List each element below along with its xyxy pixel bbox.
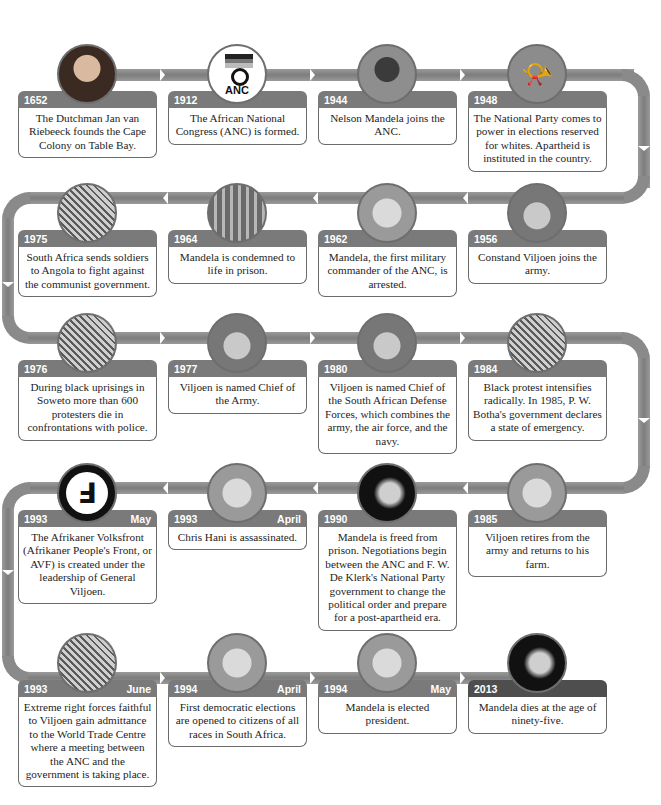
event-description: The National Party comes to power in ele… bbox=[468, 108, 607, 172]
event-description: The African National Congress (ANC) is f… bbox=[168, 108, 307, 145]
timeline-track-left-2 bbox=[2, 508, 14, 658]
event-description: Mandela is freed from prison. Negotiatio… bbox=[318, 527, 457, 631]
event-description: Extreme right forces faithful to Viljoen… bbox=[18, 697, 157, 787]
prison-bars-photo-image bbox=[207, 183, 267, 243]
chevron-down-icon bbox=[638, 418, 650, 423]
event-year: 1984 bbox=[474, 363, 497, 375]
chevron-left-icon bbox=[313, 192, 318, 204]
triskelion-icon: Ⅎ bbox=[66, 472, 108, 514]
event-year: 1976 bbox=[24, 363, 47, 375]
mandela-arrest-drawing-image bbox=[357, 183, 417, 243]
event-description: During black uprisings in Soweto more th… bbox=[18, 377, 157, 441]
mandela-president-drawing-image bbox=[357, 633, 417, 693]
young-mandela-photo-image bbox=[357, 44, 417, 104]
event-description: Mandela is condemned to life in prison. bbox=[168, 247, 307, 284]
chevron-right-icon bbox=[160, 672, 165, 684]
event-year: 1993 bbox=[24, 683, 47, 695]
event-description: Mandela is elected president. bbox=[318, 697, 457, 734]
chevron-right-icon bbox=[460, 69, 465, 81]
world-trade-centre-storming-drawing-image bbox=[57, 633, 117, 693]
event-description: Mandela dies at the age of ninety-five. bbox=[468, 697, 607, 734]
chevron-right-icon bbox=[160, 69, 165, 81]
event-year: 1993 bbox=[24, 513, 47, 525]
timeline-card-1993-may: 1993May The Afrikaner Volksfront (Afrika… bbox=[18, 510, 157, 604]
event-month: May bbox=[131, 513, 151, 525]
timeline-track-corner bbox=[2, 482, 30, 510]
timeline-card-1990: 1990 Mandela is freed from prison. Negot… bbox=[318, 510, 457, 631]
chevron-left-icon bbox=[163, 192, 168, 204]
event-description: Constand Viljoen joins the army. bbox=[468, 247, 607, 284]
event-description: The Dutchman Jan van Riebeeck founds the… bbox=[18, 108, 157, 158]
chevron-down-icon bbox=[2, 282, 14, 287]
event-year: 1993 bbox=[174, 513, 197, 525]
anc-logo-image: ANC bbox=[207, 44, 267, 104]
event-year: 1652 bbox=[24, 94, 47, 106]
event-year: 1977 bbox=[174, 363, 197, 375]
event-year: 1912 bbox=[174, 94, 197, 106]
viljoen-farmer-hat-drawing-image bbox=[507, 463, 567, 523]
timeline-track-corner bbox=[622, 176, 650, 204]
chevron-down-icon bbox=[2, 570, 14, 575]
chevron-right-icon bbox=[460, 672, 465, 684]
chevron-right-icon bbox=[310, 332, 315, 344]
anc-flag-icon bbox=[225, 54, 253, 68]
event-year: 1962 bbox=[324, 233, 347, 245]
viljoen-general-drawing-image bbox=[357, 313, 417, 373]
viljoen-beret-drawing-image bbox=[507, 183, 567, 243]
chevron-left-icon bbox=[163, 482, 168, 494]
event-description: South Africa sends soldiers to Angola to… bbox=[18, 247, 157, 297]
elderly-mandela-portrait-image bbox=[507, 633, 567, 693]
angola-soldiers-drawing-image bbox=[57, 183, 117, 243]
event-description: The Afrikaner Volksfront (Afrikaner Peop… bbox=[18, 527, 157, 604]
chevron-right-icon bbox=[460, 332, 465, 344]
event-year: 1964 bbox=[174, 233, 197, 245]
event-year: 1990 bbox=[324, 513, 347, 525]
timeline-track-corner bbox=[622, 466, 650, 494]
event-year: 1994 bbox=[324, 683, 347, 695]
event-year: 2013 bbox=[474, 683, 497, 695]
timeline-track-right-1 bbox=[638, 96, 650, 188]
chevron-left-icon bbox=[313, 482, 318, 494]
event-year: 1956 bbox=[474, 233, 497, 245]
event-year: 1985 bbox=[474, 513, 497, 525]
chevron-right-icon bbox=[310, 69, 315, 81]
event-description: Chris Hani is assassinated. bbox=[168, 527, 307, 550]
chris-hani-drawing-image bbox=[207, 463, 267, 523]
event-year: 1994 bbox=[174, 683, 197, 695]
event-month: June bbox=[126, 683, 151, 695]
event-year: 1948 bbox=[474, 94, 497, 106]
emblem-inner: Ⅎ bbox=[66, 472, 108, 514]
timeline-card-1993-june: 1993June Extreme right forces faithful t… bbox=[18, 680, 157, 787]
powder-horn-icon: 📯 bbox=[509, 46, 565, 102]
viljoen-chief-army-drawing-image bbox=[207, 313, 267, 373]
event-month: May bbox=[431, 683, 451, 695]
chevron-right-icon bbox=[160, 332, 165, 344]
timeline-track-left-1 bbox=[2, 218, 14, 318]
timeline-track-corner bbox=[2, 192, 30, 220]
event-description: Viljoen is named Chief of the Army. bbox=[168, 377, 307, 414]
event-year: 1975 bbox=[24, 233, 47, 245]
event-description: Black protest intensifies radically. In … bbox=[468, 377, 607, 441]
event-description: Mandela, the first military commander of… bbox=[318, 247, 457, 297]
chevron-left-icon bbox=[463, 192, 468, 204]
event-month: April bbox=[277, 683, 301, 695]
event-year: 1944 bbox=[324, 94, 347, 106]
event-description: Viljoen is named Chief of the South Afri… bbox=[318, 377, 457, 454]
event-description: Nelson Mandela joins the ANC. bbox=[318, 108, 457, 145]
event-year: 1980 bbox=[324, 363, 347, 375]
event-month: April bbox=[277, 513, 301, 525]
portrait-van-riebeeck-image bbox=[57, 44, 117, 104]
chevron-down-icon bbox=[638, 146, 650, 151]
event-description: First democratic elections are opened to… bbox=[168, 697, 307, 747]
timeline-card-1980: 1980 Viljoen is named Chief of the South… bbox=[318, 360, 457, 454]
voting-booth-drawing-image bbox=[207, 633, 267, 693]
protest-crowd-drawing-image bbox=[507, 313, 567, 373]
chevron-right-icon bbox=[310, 672, 315, 684]
anc-logo-text: ANC bbox=[209, 84, 265, 96]
timeline-track-corner bbox=[622, 332, 650, 360]
chevron-left-icon bbox=[463, 482, 468, 494]
national-party-horn-emblem-image: 📯 bbox=[507, 44, 567, 104]
soweto-uprising-drawing-image bbox=[57, 313, 117, 373]
timeline-track-right-2 bbox=[638, 358, 650, 468]
timeline-track-corner bbox=[2, 316, 30, 344]
